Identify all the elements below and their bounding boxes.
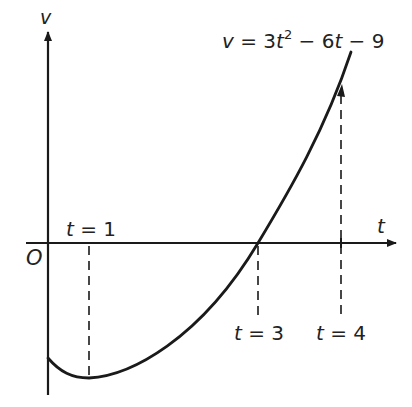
velocity-curve — [48, 52, 351, 378]
v-axis-label: v — [40, 6, 51, 28]
t-axis-label: t — [377, 214, 385, 238]
velocity-time-graph — [0, 0, 412, 407]
marker-t3: t = 3 — [234, 321, 284, 345]
origin-label: O — [26, 246, 43, 270]
marker-t1: t = 1 — [66, 217, 116, 241]
curve-equation: v = 3t2 − 6t − 9 — [222, 29, 384, 53]
marker-t4: t = 4 — [316, 321, 366, 345]
